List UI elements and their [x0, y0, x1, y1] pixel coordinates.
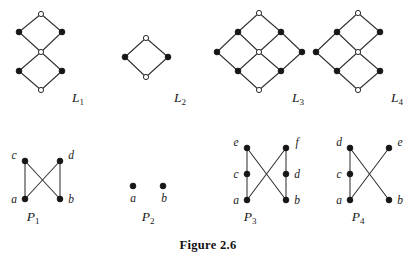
- diagram-label-subscript: 1: [80, 97, 85, 107]
- diagram-label: L1: [71, 90, 84, 107]
- graph-edge: [238, 71, 259, 90]
- graph-edge: [316, 32, 337, 52]
- diagram-label-base: P: [243, 209, 252, 224]
- diagram-label-base: L: [291, 90, 300, 105]
- graph-edge: [337, 71, 358, 90]
- graph-node-filled: [386, 145, 392, 151]
- graph-node-filled: [377, 68, 383, 74]
- graph-node-open: [38, 11, 43, 16]
- graph-node-filled: [278, 68, 284, 74]
- graph-edge: [281, 52, 302, 71]
- graph-edge: [125, 38, 146, 57]
- diagram-label-base: L: [390, 90, 399, 105]
- figure-graphics: L1L2L3L4cdabP1abP2efcdabP3decabP4 Figure…: [0, 0, 417, 257]
- graph-node-open: [143, 35, 148, 40]
- diagram-label-subscript: 3: [252, 216, 257, 226]
- graph-edge: [337, 52, 358, 71]
- graph-node-filled: [22, 158, 28, 164]
- graph-edge: [238, 32, 259, 52]
- graph-node-filled: [283, 145, 289, 151]
- diagram-label: P4: [351, 209, 365, 226]
- graph-node-filled: [278, 29, 284, 35]
- graph-node-filled: [57, 196, 63, 202]
- poset-p2: abP2: [130, 183, 167, 226]
- graph-node-filled: [130, 183, 136, 189]
- graph-node-filled: [59, 29, 65, 35]
- diagram-label-base: L: [173, 90, 182, 105]
- diagram-label: L4: [390, 90, 404, 107]
- diagram-label-subscript: 3: [300, 97, 305, 107]
- graph-edge: [19, 32, 41, 52]
- graph-node-open: [256, 10, 261, 15]
- lattice-l2: L2: [122, 35, 186, 107]
- vertex-label: b: [161, 192, 167, 204]
- diagram-label-subscript: 2: [182, 97, 187, 107]
- graph-node-filled: [214, 49, 220, 55]
- poset-p3: efcdabP3: [233, 136, 300, 226]
- vertex-label: f: [295, 136, 300, 149]
- lattice-l4: L4: [313, 10, 403, 107]
- graph-node-filled: [313, 49, 319, 55]
- vertex-label: a: [233, 194, 239, 206]
- graph-node-filled: [244, 197, 250, 203]
- graph-node-open: [355, 87, 360, 92]
- graph-node-filled: [377, 29, 383, 35]
- graph-node-filled: [347, 171, 353, 177]
- diagram-label-base: P: [26, 209, 35, 224]
- graph-edge: [41, 52, 62, 71]
- graph-node-filled: [347, 145, 353, 151]
- graph-edge: [19, 52, 41, 71]
- graph-node-filled: [122, 54, 128, 60]
- graph-edge: [238, 52, 259, 71]
- graph-edge: [259, 71, 281, 90]
- graph-node-filled: [22, 196, 28, 202]
- vertex-label: d: [294, 168, 300, 180]
- graph-edge: [217, 32, 238, 52]
- vertex-label: b: [397, 194, 403, 206]
- diagram-label-subscript: 4: [399, 97, 404, 107]
- graph-node-filled: [334, 29, 340, 35]
- diagram-label-subscript: 4: [360, 216, 365, 226]
- graph-edge: [41, 71, 62, 90]
- diagram-label: L2: [173, 90, 186, 107]
- graph-edge: [41, 32, 62, 52]
- diagram-label-base: P: [351, 209, 360, 224]
- graph-node-filled: [244, 145, 250, 151]
- vertex-label: a: [130, 192, 136, 204]
- diagram-label: P2: [141, 209, 155, 226]
- graph-node-open: [256, 87, 261, 92]
- graph-node-open: [355, 10, 360, 15]
- graph-node-filled: [283, 197, 289, 203]
- figure-container: L1L2L3L4cdabP1abP2efcdabP3decabP4 Figure…: [0, 0, 417, 257]
- graph-node-filled: [235, 68, 241, 74]
- vertex-label: d: [68, 149, 74, 161]
- figure-caption: Figure 2.6: [180, 238, 237, 252]
- graph-edge: [337, 13, 358, 32]
- graph-edge: [146, 38, 168, 57]
- lattice-l1: L1: [16, 11, 84, 107]
- graph-node-filled: [16, 29, 22, 35]
- poset-p4: decabP4: [336, 136, 403, 226]
- graph-edge: [259, 32, 281, 52]
- diagram-label-subscript: 2: [150, 216, 155, 226]
- diagram-label-base: L: [71, 90, 80, 105]
- graph-node-open: [143, 74, 148, 79]
- graph-edge: [146, 57, 168, 77]
- graph-edge: [259, 52, 281, 71]
- graph-edge: [19, 71, 41, 90]
- graph-node-filled: [59, 68, 65, 74]
- lattice-l3: L3: [214, 10, 305, 107]
- vertex-label: e: [233, 136, 238, 148]
- graph-node-filled: [160, 183, 166, 189]
- graph-edge: [125, 57, 146, 77]
- graph-node-filled: [235, 29, 241, 35]
- vertex-label: d: [336, 136, 342, 148]
- graph-edge: [19, 14, 41, 32]
- diagram-label-subscript: 1: [35, 216, 40, 226]
- graph-node-filled: [299, 49, 305, 55]
- graph-edge: [259, 13, 281, 32]
- graph-node-filled: [244, 171, 250, 177]
- graph-node-filled: [16, 68, 22, 74]
- diagram-label: P3: [243, 209, 257, 226]
- vertex-label: a: [11, 193, 17, 205]
